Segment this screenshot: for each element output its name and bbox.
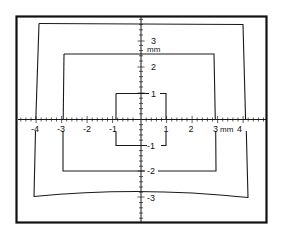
- x-label: -3: [57, 124, 65, 134]
- y-label: -3: [147, 193, 155, 203]
- x-label: -1: [109, 124, 117, 134]
- distortion-diagram: -4 -3 -2 -1 1 2 3 mm 4 3 mm 2 1 -1 -2 -3: [0, 0, 283, 236]
- x-label: -2: [83, 124, 91, 134]
- y-unit-label: mm: [147, 45, 161, 54]
- x-label: -4: [31, 124, 39, 134]
- x-axis-labels: -4 -3 -2 -1 1 2 3 mm 4: [31, 124, 242, 134]
- x-label: 2: [189, 124, 194, 134]
- y-label: -1: [147, 141, 155, 151]
- x-label: 3: [213, 124, 218, 134]
- x-unit-label: mm: [220, 125, 234, 134]
- y-label: -2: [147, 166, 155, 176]
- x-label: 1: [164, 124, 169, 134]
- y-label: 1: [151, 89, 156, 99]
- x-label: 4: [237, 124, 242, 134]
- y-label: 2: [151, 62, 156, 72]
- x-axis: [18, 116, 266, 123]
